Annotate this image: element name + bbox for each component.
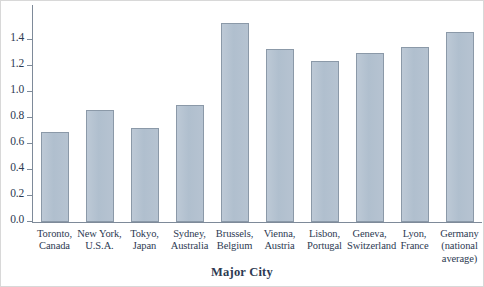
bar [86,110,114,222]
x-axis-label-line: Lisbon, [302,228,347,240]
y-axis-tick-label: 1.2 [10,57,24,69]
x-axis-label: Geneva,Switzerland [347,228,392,253]
x-axis-title: Major City [1,265,483,280]
x-axis-label-line: France [392,240,437,252]
x-axis-label: Brussels,Belgium [212,228,257,253]
x-axis-label-line: U.S.A. [77,240,122,252]
y-axis-tick-label: 0.4 [10,161,24,173]
bar-fill [42,133,68,221]
x-axis-label: New York,U.S.A. [77,228,122,253]
x-axis-label: Lyon,France [392,228,437,253]
x-axis-label-line: Austria [257,240,302,252]
bar-chart-figure: 0.00.20.40.60.81.01.21.4 Toronto,CanadaN… [0,0,484,287]
x-axis-label-line: average) [437,253,482,265]
x-axis-label-line: New York, [77,228,122,240]
x-axis-line [32,222,482,223]
bar [176,105,204,222]
bar-fill [132,129,158,221]
y-axis-tick-label: 1.4 [10,31,24,43]
bar-fill [87,111,113,221]
bar-fill [402,48,428,222]
bar-fill [222,24,248,221]
x-axis-label-line: Australia [167,240,212,252]
bar-fill [177,106,203,221]
x-axis-label-line: Tokyo, [122,228,167,240]
x-axis-label: Toronto,Canada [32,228,77,253]
y-axis-tick-label: 0.6 [10,135,24,147]
x-axis-label: Lisbon,Portugal [302,228,347,253]
y-axis-tick-label: 0.8 [10,109,24,121]
x-axis-label: Tokyo,Japan [122,228,167,253]
x-axis-label-line: Toronto, [32,228,77,240]
x-axis-label-line: Canada [32,240,77,252]
x-axis-label-line: Sydney, [167,228,212,240]
x-axis-label: Vienna,Austria [257,228,302,253]
y-axis-tick-label: 1.0 [10,83,24,95]
bar-fill [447,33,473,221]
x-axis-label-line: (national [437,240,482,252]
x-axis-label-line: Brussels, [212,228,257,240]
bar [41,132,69,222]
x-axis-label-line: Geneva, [347,228,392,240]
x-axis-label-line: Switzerland [347,240,392,252]
x-axis-label: Germany(nationalaverage) [437,228,482,265]
bar [311,61,339,222]
y-axis-tick-label: 0.2 [10,187,24,199]
bar [221,23,249,222]
bar [401,47,429,223]
x-axis-label-line: Japan [122,240,167,252]
bar [446,32,474,222]
x-axis-label: Sydney,Australia [167,228,212,253]
plot-area [32,5,482,222]
x-axis-label-line: Portugal [302,240,347,252]
x-axis-label-line: Vienna, [257,228,302,240]
bar-fill [267,50,293,221]
bar [266,49,294,222]
bar-fill [357,54,383,221]
bar-fill [312,62,338,221]
y-axis-tick-label: 0.0 [10,213,24,225]
bar [356,53,384,222]
x-axis-label-line: Belgium [212,240,257,252]
x-axis-label-line: Germany [437,228,482,240]
bar [131,128,159,222]
x-axis-label-line: Lyon, [392,228,437,240]
